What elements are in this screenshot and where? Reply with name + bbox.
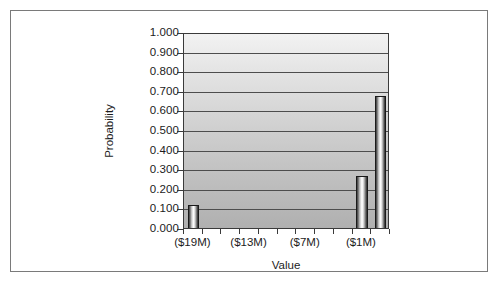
x-axis-tick xyxy=(295,229,296,234)
y-axis-title: Probability xyxy=(103,104,115,158)
x-axis-tick xyxy=(277,229,278,234)
y-axis-tick xyxy=(177,151,183,152)
y-axis-tick xyxy=(177,170,183,171)
y-axis-tick-label: 0.500 xyxy=(123,125,179,137)
x-axis-tick xyxy=(220,229,221,234)
bar xyxy=(375,96,387,228)
y-axis-tick-label: 0.000 xyxy=(123,223,179,235)
y-axis-tick-label: 0.400 xyxy=(123,145,179,157)
y-axis-tick-label: 0.200 xyxy=(123,184,179,196)
y-axis-labels: 1.0000.9000.8000.7000.6000.5000.4000.300… xyxy=(123,33,179,229)
x-axis-title: Value xyxy=(183,259,389,271)
y-axis-tick xyxy=(177,131,183,132)
x-axis-tick xyxy=(333,229,334,234)
gridline xyxy=(184,92,388,93)
bar xyxy=(356,176,368,228)
x-axis-tick xyxy=(314,229,315,234)
y-axis-tick xyxy=(177,229,183,230)
x-axis-tick-label: ($7M) xyxy=(290,237,320,249)
x-axis-tick xyxy=(389,229,390,234)
gridline xyxy=(184,170,388,171)
gridline xyxy=(184,131,388,132)
x-axis-tick-label: ($13M) xyxy=(230,237,266,249)
y-axis-tick xyxy=(177,92,183,93)
y-axis-tick xyxy=(177,209,183,210)
gridline xyxy=(184,72,388,73)
x-axis-tick xyxy=(239,229,240,234)
y-axis-tick xyxy=(177,72,183,73)
x-axis-tick xyxy=(202,229,203,234)
y-axis-tick xyxy=(177,111,183,112)
x-axis-tick xyxy=(258,229,259,234)
gridline xyxy=(184,111,388,112)
x-axis-tick xyxy=(183,229,184,234)
gridline xyxy=(184,53,388,54)
chart-frame: Probability 1.0000.9000.8000.7000.6000.5… xyxy=(10,10,488,272)
y-axis-tick-label: 0.300 xyxy=(123,164,179,176)
plot-area xyxy=(183,33,389,229)
y-axis-tick xyxy=(177,190,183,191)
x-axis-tick-label: ($1M) xyxy=(346,237,376,249)
y-axis-tick-label: 0.100 xyxy=(123,204,179,216)
bar xyxy=(188,205,200,228)
y-axis-tick-label: 0.800 xyxy=(123,66,179,78)
gridline xyxy=(184,151,388,152)
y-axis-tick-label: 0.900 xyxy=(123,47,179,59)
y-axis-tick-label: 0.600 xyxy=(123,106,179,118)
x-axis-tick xyxy=(370,229,371,234)
x-axis-tick xyxy=(352,229,353,234)
y-axis-tick xyxy=(177,53,183,54)
y-axis-tick-label: 0.700 xyxy=(123,86,179,98)
y-axis-tick xyxy=(177,33,183,34)
y-axis-tick-label: 1.000 xyxy=(123,27,179,39)
x-axis-tick-label: ($19M) xyxy=(174,237,210,249)
